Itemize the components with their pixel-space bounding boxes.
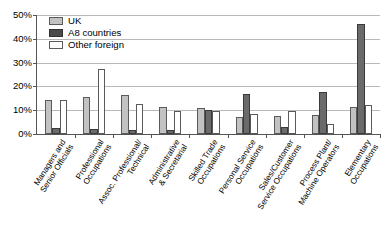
bar — [60, 100, 67, 134]
legend-label: Other foreign — [68, 40, 124, 50]
y-axis-tick-label: 50% — [0, 10, 32, 20]
bar — [350, 107, 357, 134]
legend-swatch-uk — [49, 17, 63, 26]
legend-item-a8: A8 countries — [49, 28, 124, 38]
bar — [45, 100, 52, 134]
legend-label: UK — [68, 16, 81, 26]
bar — [159, 107, 166, 134]
bar — [236, 117, 243, 134]
y-axis-tick-label: 20% — [0, 82, 32, 92]
bar — [205, 110, 212, 135]
bar-group — [228, 15, 266, 134]
bar — [250, 114, 257, 134]
bar — [288, 111, 295, 134]
bar — [327, 124, 334, 134]
chart-legend: UKA8 countriesOther foreign — [49, 16, 124, 50]
bar — [90, 129, 97, 134]
x-axis-label: ElementaryOccupations — [340, 138, 380, 187]
x-axis-label: ProfessionalOccupations — [74, 138, 114, 187]
bar — [174, 111, 181, 134]
legend-label: A8 countries — [68, 28, 121, 38]
bar-group — [304, 15, 342, 134]
bar — [197, 108, 204, 134]
bar — [121, 95, 128, 135]
legend-swatch-a8 — [49, 29, 63, 38]
bar-group — [342, 15, 380, 134]
bar — [136, 104, 143, 134]
y-axis-tick-label: 0% — [0, 129, 32, 139]
bar-group — [189, 15, 227, 134]
legend-swatch-other — [49, 41, 63, 50]
bar-group — [151, 15, 189, 134]
bar — [243, 94, 250, 134]
x-axis-label: Administrative& Secretarial — [147, 138, 190, 192]
bar — [365, 105, 372, 134]
y-axis-tick-label: 40% — [0, 34, 32, 44]
legend-item-other: Other foreign — [49, 40, 124, 50]
legend-item-uk: UK — [49, 16, 124, 26]
x-axis-label: Managers andSenior Officials — [31, 138, 76, 195]
x-axis-category-labels: Managers andSenior OfficialsProfessional… — [36, 138, 379, 230]
x-axis-tick — [380, 134, 381, 138]
bar — [83, 97, 90, 134]
bar — [312, 115, 319, 134]
bar — [167, 130, 174, 134]
bar — [98, 69, 105, 134]
bar — [212, 111, 219, 134]
bar — [319, 92, 326, 134]
bar-group — [266, 15, 304, 134]
bar — [357, 24, 364, 134]
bar — [274, 116, 281, 134]
bar — [281, 127, 288, 134]
bar — [129, 130, 136, 134]
y-axis-tick-label: 30% — [0, 58, 32, 68]
bar — [52, 128, 59, 134]
occupation-distribution-bar-chart: 0%10%20%30%40%50% Managers andSenior Off… — [0, 0, 385, 242]
y-axis-tick-label: 10% — [0, 105, 32, 115]
y-axis-tick — [33, 134, 37, 135]
